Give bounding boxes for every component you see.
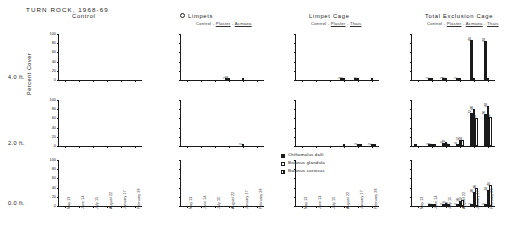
bar-value-label: 72 bbox=[468, 110, 472, 114]
x-tick bbox=[474, 206, 475, 208]
x-tick bbox=[107, 80, 108, 82]
bar bbox=[343, 144, 346, 146]
bar bbox=[484, 41, 487, 80]
x-tick bbox=[121, 146, 122, 148]
x-tick bbox=[372, 80, 373, 82]
x-tick bbox=[257, 206, 258, 208]
x-tick bbox=[107, 206, 108, 208]
y-axis bbox=[180, 34, 181, 80]
y-tick bbox=[179, 34, 181, 35]
bar-value-label: 62 bbox=[487, 115, 491, 119]
y-tick bbox=[57, 52, 59, 53]
bar bbox=[373, 144, 376, 146]
y-tick bbox=[57, 160, 59, 161]
panel-r0-c0: Control020406080100 bbox=[58, 34, 142, 80]
y-tick bbox=[410, 178, 412, 179]
y-tick-label: 100 bbox=[45, 98, 56, 102]
bar bbox=[242, 78, 245, 80]
y-tick bbox=[294, 188, 296, 189]
x-axis bbox=[58, 80, 142, 81]
x-tick bbox=[432, 146, 433, 148]
x-axis bbox=[295, 80, 379, 81]
y-tick-label: 40 bbox=[45, 126, 56, 130]
y-tick bbox=[410, 169, 412, 170]
x-tick bbox=[93, 206, 94, 208]
x-tick bbox=[302, 206, 303, 208]
y-tick bbox=[57, 80, 59, 81]
legend-label-2: Balanus cariosus bbox=[288, 168, 325, 173]
panel-subtitle-2: Control - Plaster - Thais bbox=[311, 21, 361, 26]
panel-r1-c1: 2 bbox=[180, 100, 264, 146]
x-tick-label: July 15 bbox=[217, 197, 221, 209]
x-tick bbox=[201, 146, 202, 148]
x-tick bbox=[446, 146, 447, 148]
y-tick bbox=[410, 118, 412, 119]
bar-value-label: 2 bbox=[426, 77, 430, 79]
y-tick-label: 20 bbox=[45, 135, 56, 139]
x-tick-label: August 22 bbox=[346, 192, 350, 209]
y-tick bbox=[410, 52, 412, 53]
y-tick-label: 100 bbox=[45, 158, 56, 162]
y-axis bbox=[58, 100, 59, 146]
y-tick bbox=[57, 71, 59, 72]
x-tick bbox=[432, 206, 433, 208]
y-tick bbox=[179, 109, 181, 110]
bar-value-label: 14 bbox=[459, 137, 463, 141]
x-tick bbox=[135, 146, 136, 148]
x-tick-label: May 13 bbox=[420, 197, 424, 209]
x-tick bbox=[302, 146, 303, 148]
y-tick bbox=[410, 137, 412, 138]
bar bbox=[459, 78, 462, 80]
x-tick bbox=[215, 146, 216, 148]
bar-value-label: 4 bbox=[454, 142, 458, 144]
y-tick bbox=[57, 109, 59, 110]
y-axis bbox=[411, 100, 412, 146]
x-tick-label: February 26 bbox=[259, 189, 263, 209]
panel-r1-c0: 020406080100 bbox=[58, 100, 142, 146]
x-tick bbox=[358, 206, 359, 208]
bar-value-label: 2 bbox=[428, 143, 432, 145]
bar bbox=[470, 40, 473, 80]
y-axis bbox=[411, 34, 412, 80]
y-tick bbox=[179, 137, 181, 138]
x-tick-label: June 14 bbox=[203, 196, 207, 210]
y-tick bbox=[410, 43, 412, 44]
bar-value-label: 40 bbox=[473, 185, 477, 189]
x-tick-label: January 17 bbox=[360, 190, 364, 209]
bar-value-label: 3 bbox=[354, 143, 358, 145]
y-tick-label: 20 bbox=[45, 69, 56, 73]
bar-value-label: 3 bbox=[468, 203, 472, 205]
panel-r2-c1: May 13June 14July 15August 22January 17F… bbox=[180, 160, 264, 206]
y-tick bbox=[410, 100, 412, 101]
panel-r0-c1: LimpetsControl - Plaster - Acmaea34 bbox=[180, 34, 264, 80]
x-tick bbox=[460, 146, 461, 148]
legend-swatch-1 bbox=[281, 162, 285, 166]
panel-title-3: Total Exclusion Cage bbox=[425, 13, 493, 19]
bar-value-label: 2 bbox=[239, 143, 243, 145]
y-tick-label: 60 bbox=[45, 176, 56, 180]
y-tick-label: 0 bbox=[45, 78, 56, 82]
x-tick-label: June 14 bbox=[434, 196, 438, 210]
y-tick bbox=[57, 62, 59, 63]
x-tick-label: June 14 bbox=[81, 196, 85, 210]
x-tick-label: January 17 bbox=[476, 190, 480, 209]
x-tick bbox=[344, 146, 345, 148]
x-tick bbox=[257, 146, 258, 148]
y-tick bbox=[410, 109, 412, 110]
x-tick bbox=[243, 80, 244, 82]
panel-subtitle-1: Control - Plaster - Acmaea bbox=[196, 21, 252, 26]
y-axis bbox=[180, 160, 181, 206]
x-tick-label: February 26 bbox=[490, 189, 494, 209]
panel-title-0: Control bbox=[72, 13, 96, 19]
y-tick-label: 100 bbox=[45, 32, 56, 36]
bar-value-label: 4 bbox=[470, 76, 474, 78]
x-tick bbox=[474, 146, 475, 148]
y-axis bbox=[411, 160, 412, 206]
x-tick bbox=[344, 80, 345, 82]
bar-value-label: 4 bbox=[225, 76, 229, 78]
y-tick bbox=[57, 188, 59, 189]
x-tick bbox=[187, 80, 188, 82]
y-tick bbox=[179, 80, 181, 81]
y-axis bbox=[58, 160, 59, 206]
x-axis bbox=[180, 146, 264, 147]
